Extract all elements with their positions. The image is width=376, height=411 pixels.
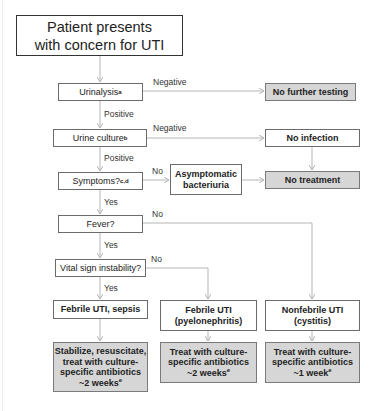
treat-cystitis-line2: specific antibiotics bbox=[272, 357, 353, 368]
edge-label-symptoms-yes: Yes bbox=[104, 197, 118, 207]
node-no-treatment: No treatment bbox=[265, 171, 360, 189]
node-treat-pyelonephritis: Treat with culture- specific antibiotics… bbox=[160, 342, 257, 383]
node-symptoms: Symptoms?c,d bbox=[58, 172, 143, 190]
treat-sepsis-footnote: e bbox=[119, 377, 122, 383]
node-fever: Fever? bbox=[58, 215, 143, 233]
nonfebrile-line1: Nonfebrile UTI bbox=[282, 305, 344, 316]
edge-label-culture-negative: Negative bbox=[153, 123, 187, 133]
treat-cystitis-line1: Treat with culture- bbox=[274, 347, 352, 358]
edge-label-symptoms-no: No bbox=[152, 166, 163, 176]
node-no-infection: No infection bbox=[265, 129, 360, 147]
no-treatment-text: No treatment bbox=[285, 175, 341, 186]
edge-label-urinalysis-positive: Positive bbox=[104, 109, 134, 119]
start-text: Patient presents with concern for UTI bbox=[35, 18, 165, 54]
edge-label-vital-no: No bbox=[151, 254, 162, 264]
node-start: Patient presents with concern for UTI bbox=[16, 15, 183, 56]
febrile-pyelo-line2: (pyelonephritis) bbox=[175, 316, 243, 327]
treat-pyelo-line2: specific antibiotics bbox=[168, 357, 249, 368]
vital-sign-text: Vital sign instability? bbox=[60, 263, 141, 274]
node-treat-sepsis: Stabilize, resuscitate, treat with cultu… bbox=[53, 342, 148, 392]
asymptomatic-line2: bacteriuria bbox=[183, 180, 229, 191]
edge-label-culture-positive: Positive bbox=[104, 153, 134, 163]
edge-label-fever-yes: Yes bbox=[104, 240, 118, 250]
asymptomatic-line1: Asymptomatic bbox=[175, 169, 237, 180]
treat-pyelo-footnote: e bbox=[227, 367, 230, 373]
edge-label-vital-yes: Yes bbox=[104, 283, 118, 293]
treat-sepsis-line4-wrap: ~2 weekse bbox=[79, 378, 122, 389]
node-febrile-uti-sepsis: Febrile UTI, sepsis bbox=[53, 300, 148, 319]
treat-pyelo-line1: Treat with culture- bbox=[170, 347, 248, 358]
urine-culture-text: Urine culture bbox=[73, 133, 124, 144]
treat-sepsis-line1: Stabilize, resuscitate, bbox=[55, 346, 147, 357]
treat-pyelo-duration: ~2 weeks bbox=[187, 368, 227, 378]
node-treat-cystitis: Treat with culture- specific antibiotics… bbox=[265, 342, 360, 383]
node-nonfebrile-uti-cystitis: Nonfebrile UTI (cystitis) bbox=[265, 300, 360, 331]
febrile-pyelo-line1: Febrile UTI bbox=[185, 305, 232, 316]
fever-text: Fever? bbox=[86, 219, 114, 230]
treat-sepsis-line2: treat with culture- bbox=[63, 357, 139, 368]
edge-label-urinalysis-negative: Negative bbox=[153, 77, 187, 87]
node-febrile-uti-pyelonephritis: Febrile UTI (pyelonephritis) bbox=[160, 300, 257, 331]
treat-cystitis-footnote: e bbox=[328, 367, 331, 373]
treat-cystitis-line3-wrap: ~1 weeke bbox=[293, 368, 331, 379]
node-no-further-testing: No further testing bbox=[265, 83, 356, 101]
node-urinalysis: Urinalysisa bbox=[58, 83, 143, 101]
symptoms-text: Symptoms? bbox=[72, 176, 120, 187]
node-urine-culture: Urine cultureb bbox=[53, 129, 147, 147]
urinalysis-text: Urinalysis bbox=[79, 87, 118, 98]
treat-sepsis-line3: specific antibiotics bbox=[60, 367, 141, 378]
nonfebrile-line2: (cystitis) bbox=[294, 316, 331, 327]
no-infection-text: No infection bbox=[287, 133, 339, 144]
treat-cystitis-duration: ~1 week bbox=[293, 368, 328, 378]
treat-pyelo-line3-wrap: ~2 weekse bbox=[187, 368, 230, 379]
node-vital-sign-instability: Vital sign instability? bbox=[55, 259, 146, 277]
febrile-sepsis-text: Febrile UTI, sepsis bbox=[61, 304, 141, 315]
edge-label-fever-no: No bbox=[152, 209, 163, 219]
no-further-testing-text: No further testing bbox=[273, 87, 349, 98]
node-asymptomatic-bacteriuria: Asymptomatic bacteriuria bbox=[170, 164, 242, 195]
treat-sepsis-duration: ~2 weeks bbox=[79, 378, 119, 388]
